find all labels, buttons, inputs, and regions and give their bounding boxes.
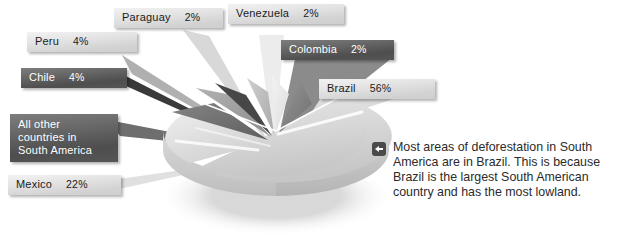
- callout-colombia-percent: 2%: [351, 43, 367, 55]
- left-arrow-badge-icon: [372, 142, 386, 156]
- callout-venezuela-name: Venezuela: [236, 7, 289, 19]
- callout-paraguay[interactable]: Paraguay2%: [114, 8, 223, 28]
- callout-chile-percent: 4%: [69, 71, 85, 83]
- callout-venezuela[interactable]: Venezuela2%: [228, 4, 344, 24]
- callout-peru-name: Peru: [35, 35, 59, 47]
- callout-mexico-percent: 22%: [66, 178, 88, 190]
- callout-colombia-name: Colombia: [289, 43, 337, 55]
- callout-colombia[interactable]: Colombia2%: [281, 40, 394, 60]
- callout-peru-percent: 4%: [73, 35, 89, 47]
- callout-peru[interactable]: Peru4%: [27, 32, 137, 52]
- callout-chile-name: Chile: [29, 71, 55, 83]
- callout-mexico[interactable]: Mexico22%: [8, 175, 121, 195]
- callout-brazil-percent: 56%: [370, 82, 392, 94]
- callout-brazil[interactable]: Brazil56%: [319, 79, 435, 99]
- callout-mexico-name: Mexico: [16, 178, 52, 190]
- callout-venezuela-percent: 2%: [303, 7, 319, 19]
- callout-brazil-name: Brazil: [327, 82, 356, 94]
- callout-chile[interactable]: Chile4%: [21, 68, 127, 88]
- callout-paraguay-name: Paraguay: [122, 11, 171, 23]
- annotation-block: Most areas of deforestation in South Ame…: [372, 140, 616, 200]
- callout-all-other-countries-name: All other countries in South America: [18, 118, 92, 156]
- callout-all-other-countries[interactable]: All other countries in South America: [10, 114, 118, 162]
- callout-paraguay-percent: 2%: [185, 11, 201, 23]
- deforestation-pie-figure: Paraguay2% Venezuela2% Peru4% Colombia2%…: [0, 0, 623, 242]
- annotation-text: Most areas of deforestation in South Ame…: [393, 140, 616, 200]
